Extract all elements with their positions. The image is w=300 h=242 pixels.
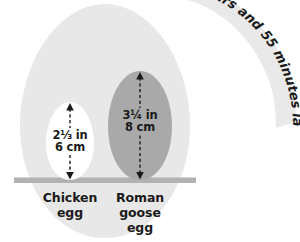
chicken-egg-caption-line-2: egg xyxy=(57,205,83,220)
chicken-egg-measure-label: 2⅓ in 6 cm xyxy=(48,128,92,156)
chicken-egg-caption-line-1: Chicken xyxy=(43,190,97,205)
chicken-egg-centimeters: 6 cm xyxy=(55,140,85,154)
roman-goose-egg-measure-label: 3¼ in 8 cm xyxy=(117,108,163,136)
baseline-bar xyxy=(14,178,196,184)
egg-comparison-figure: 2⅓ in 6 cm 3¼ in 8 cm Chicken egg Roman … xyxy=(0,0,300,242)
roman-goose-egg-centimeters: 8 cm xyxy=(125,120,155,134)
roman-goose-egg-caption-line-2: goose xyxy=(119,205,161,220)
roman-goose-egg-caption-line-1: Roman xyxy=(116,190,164,205)
roman-goose-egg-caption-line-3: egg xyxy=(127,220,153,235)
